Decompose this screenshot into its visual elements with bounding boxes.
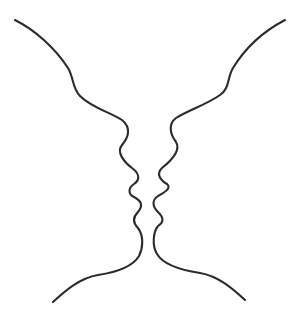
left-face-profile — [15, 20, 142, 302]
illusion-canvas — [0, 0, 297, 321]
vase-faces-drawing — [0, 0, 297, 321]
right-face-profile — [154, 20, 286, 300]
